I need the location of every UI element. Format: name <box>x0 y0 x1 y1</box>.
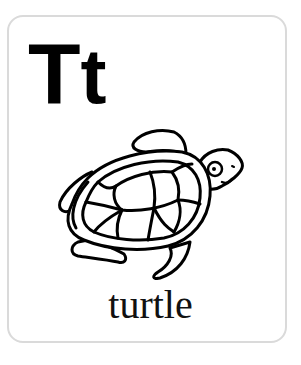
flashcard-canvas: Tt <box>0 0 301 365</box>
uppercase-letter: T <box>28 25 79 121</box>
letter-heading: Tt <box>28 30 107 116</box>
turtle-icon <box>52 124 248 280</box>
lowercase-letter: t <box>81 32 107 120</box>
word-label: turtle <box>0 283 301 327</box>
